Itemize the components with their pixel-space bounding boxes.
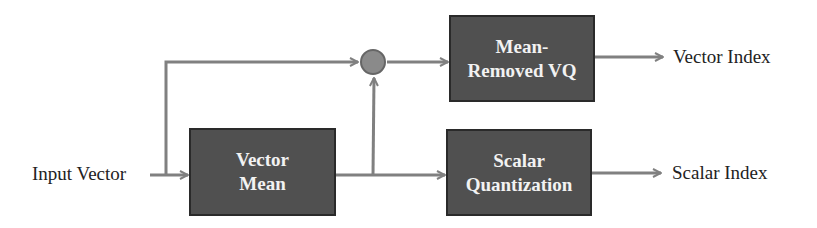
connector-lines	[0, 0, 817, 228]
scalar-index-label: Scalar Index	[672, 162, 767, 184]
vector-mean-line2: Mean	[239, 172, 285, 196]
vector-mean-line1: Vector	[236, 148, 289, 172]
summing-node-icon	[360, 49, 386, 75]
mrvq-line1: Mean-	[496, 35, 549, 59]
sq-line2: Quantization	[466, 173, 573, 197]
mean-removed-vq-block: Mean- Removed VQ	[449, 15, 595, 102]
vector-mean-block: Vector Mean	[189, 128, 336, 216]
sq-line1: Scalar	[493, 149, 545, 173]
scalar-quantization-block: Scalar Quantization	[446, 129, 592, 216]
mrvq-line2: Removed VQ	[468, 59, 577, 83]
vector-index-label: Vector Index	[673, 46, 771, 68]
input-vector-label: Input Vector	[32, 163, 126, 185]
